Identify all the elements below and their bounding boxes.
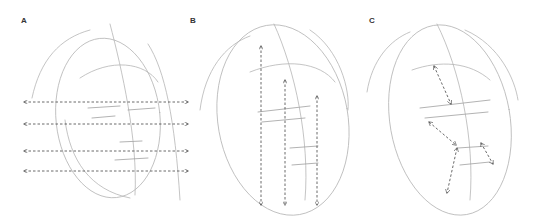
sketch-canvas (0, 0, 534, 223)
panel-a-horizontal-arrows (24, 102, 188, 171)
panel-c-diagonal-arrows (429, 66, 493, 193)
panel-b-vertical-arrows (261, 46, 317, 205)
panel-a-sketch (32, 24, 180, 203)
panel-b-sketch (200, 14, 364, 223)
panel-c-sketch (367, 15, 526, 223)
face-guideline-figure: A B C (0, 0, 534, 223)
